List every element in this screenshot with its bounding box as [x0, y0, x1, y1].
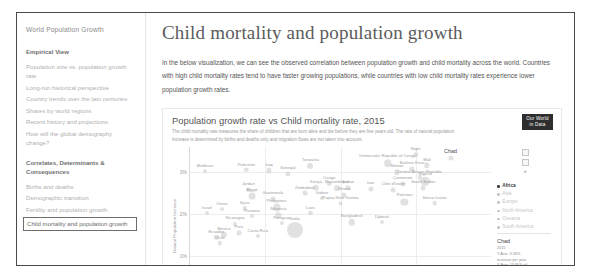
y-axis-ticks: 3%2%1% — [178, 147, 189, 265]
scatter-point[interactable] — [349, 219, 355, 225]
scatter-point[interactable] — [237, 231, 242, 236]
y-axis-tick-label: 2% — [180, 211, 187, 217]
scatter-point-label: South Sudan — [411, 180, 435, 184]
zoom-in-icon[interactable] — [522, 149, 529, 156]
scatter-point-label: Côte d'Ivoire — [381, 182, 404, 186]
y-axis-tick-label: 1% — [180, 253, 187, 259]
sidebar-item-country-trends[interactable]: Country trends over the last centuries — [26, 94, 136, 103]
tooltip-line: X Axis: 13.85% of — [497, 263, 553, 265]
scatter-point[interactable] — [421, 186, 426, 191]
chart-body: Natural Population Increase 3%2%1% Maldi… — [172, 147, 553, 265]
scatter-point-label: Senegal — [280, 166, 295, 170]
legend-swatch-icon — [497, 218, 500, 221]
scatter-point[interactable] — [287, 222, 303, 238]
sidebar-item-child-mortality[interactable]: Child mortality and population growth — [23, 217, 137, 232]
scatter-point[interactable] — [380, 220, 384, 224]
legend-swatch-icon — [497, 193, 500, 196]
sidebar-item-recent-history[interactable]: Recent history and projections — [26, 117, 136, 126]
scatter-point[interactable] — [250, 214, 254, 218]
scatter-point[interactable] — [218, 241, 222, 245]
legend-item-africa[interactable]: Africa — [497, 184, 553, 189]
owid-logo-line1: Our World — [526, 116, 550, 122]
legend-item-north-america[interactable]: North America — [497, 209, 553, 214]
sidebar-item-demographic-transition[interactable]: Demographic transition — [26, 193, 136, 202]
scatter-point-label: Syria — [240, 201, 250, 205]
scatter-point[interactable] — [205, 211, 209, 215]
scatter-point[interactable] — [432, 201, 437, 206]
scatter-point[interactable] — [368, 186, 373, 191]
scatter-point-label: Cameroon — [393, 176, 413, 180]
scatter-point-label: Oman — [216, 202, 227, 206]
legend-item-asia[interactable]: Asia — [497, 192, 553, 197]
rail-divider — [497, 233, 551, 234]
scatter-point-label: Bangladesh — [341, 214, 363, 218]
sidebar-item-long-run[interactable]: Long-run historical perspective — [26, 83, 136, 92]
scatter-point[interactable] — [338, 201, 343, 206]
main-content: Child mortality and population growth In… — [146, 13, 574, 265]
legend-label: Oceania — [502, 217, 520, 222]
scatter-point[interactable] — [280, 221, 284, 225]
scatter-point[interactable] — [302, 191, 307, 196]
scatter-point-label: Israel — [202, 206, 212, 210]
scatter-point[interactable] — [424, 163, 429, 168]
legend-label: South America — [502, 225, 533, 230]
sidebar-item-global-demography[interactable]: How will the global demography change? — [26, 129, 136, 147]
scatter-point-label: Pakistan — [396, 193, 412, 197]
sidebar-section-empirical: Empirical View Population size vs. popul… — [26, 48, 136, 148]
y-axis-label: Natural Population Increase — [172, 183, 177, 265]
scatter-point[interactable] — [401, 198, 408, 205]
scatter-point-label: Costa Rica — [247, 229, 267, 233]
sidebar-section-heading: Correlates, Determinants & Consequences — [26, 159, 136, 175]
scatter-point[interactable] — [448, 155, 453, 160]
screenshot-root: World Population Growth Empirical View P… — [0, 0, 589, 275]
y-axis-tick-label: 3% — [180, 169, 187, 175]
zoom-out-icon[interactable] — [522, 159, 529, 166]
country-tooltip: Chad 2015 Y Axis: 3.34% increase per yea… — [497, 238, 553, 265]
scatter-point-label: Guatemala — [263, 191, 283, 195]
our-world-in-data-logo[interactable]: Our World in Data — [522, 114, 553, 130]
scatter-point-label: Tanzania — [302, 158, 319, 162]
sidebar-item-fertility-population[interactable]: Fertility and population growth — [26, 205, 136, 214]
intro-paragraph: In the below visualization, we can see t… — [162, 56, 560, 97]
scatter-point[interactable] — [413, 152, 419, 158]
legend-item-oceania[interactable]: Oceania — [497, 217, 553, 222]
scatter-point[interactable] — [285, 171, 290, 176]
sidebar-title: World Population Growth — [26, 26, 136, 35]
reset-dot-icon[interactable]: ● — [497, 169, 553, 174]
scatter-point-label: Peru — [234, 225, 243, 229]
legend-label: Asia — [502, 192, 511, 197]
sidebar: World Population Growth Empirical View P… — [17, 13, 146, 265]
legend-item-south-america[interactable]: South America — [497, 225, 553, 230]
scatter-point[interactable] — [220, 207, 224, 211]
legend-swatch-icon — [497, 210, 500, 213]
scatter-point-label: Democratic Republic of Congo — [359, 154, 416, 158]
legend-swatch-icon — [497, 185, 500, 188]
scatter-point-label: Nicaragua — [226, 216, 245, 220]
scatter-point-label: Panama — [244, 209, 260, 213]
sidebar-section-heading: Empirical View — [26, 48, 136, 56]
page-frame: World Population Growth Empirical View P… — [16, 12, 575, 266]
legend-label: Europe — [502, 200, 517, 205]
scatter-point[interactable] — [256, 234, 260, 238]
scatter-point-label: Laos — [306, 206, 315, 210]
scatter-point[interactable] — [307, 163, 313, 169]
sidebar-item-shares-regions[interactable]: Shares by world regions — [26, 106, 136, 115]
sidebar-section-correlates: Correlates, Determinants & Consequences … — [26, 159, 136, 231]
scatter-plot-area[interactable]: MaldivesPalestineIraqJordanEgyptGuatemal… — [189, 147, 491, 265]
legend-item-europe[interactable]: Europe — [497, 200, 553, 205]
scatter-point-label: Chad — [444, 149, 457, 154]
scatter-point-label: Egypt — [247, 188, 258, 192]
scatter-point-label: Sudan — [342, 180, 354, 184]
legend: Africa Asia Europe — [497, 184, 553, 230]
sidebar-item-population-size[interactable]: Population size vs. population growth ra… — [26, 62, 136, 80]
scatter-point[interactable] — [203, 169, 207, 173]
scatter-point-label: India — [291, 217, 300, 221]
sidebar-item-births-deaths[interactable]: Births and deaths — [26, 182, 136, 191]
chart-card: Our World in Data Population growth rate… — [162, 108, 562, 265]
scatter-point-label: Kenya — [310, 180, 322, 184]
scatter-point[interactable] — [391, 187, 396, 192]
scatter-point-label: Palestine — [238, 163, 255, 167]
scatter-point-label: Papua New Guinea — [322, 196, 358, 200]
chart-zoom-controls[interactable]: ● — [497, 149, 553, 174]
page-title: Child mortality and population growth — [162, 23, 562, 44]
